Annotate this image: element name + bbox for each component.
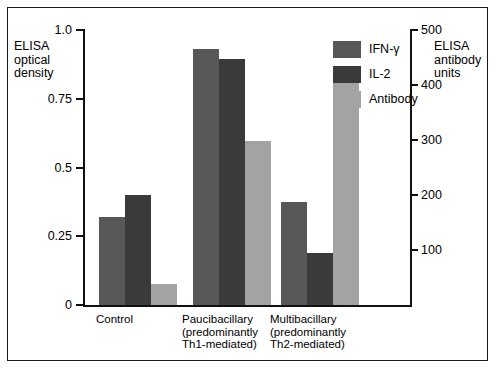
- y-tick-right: [410, 139, 418, 141]
- bar: [245, 141, 271, 305]
- x-axis-group-label: Control: [96, 313, 133, 326]
- legend-swatch: [333, 41, 361, 58]
- legend-label: IL-2: [369, 68, 391, 81]
- y-tick-label-left: 0.75: [48, 93, 72, 106]
- legend-item: IL-2: [333, 66, 428, 83]
- legend-item: IFN-γ: [333, 41, 428, 58]
- figure: ELISA optical density ELISA antibody uni…: [0, 0, 497, 370]
- y-tick-label-right: 100: [421, 244, 442, 257]
- y-tick-label-left: 0.25: [48, 230, 72, 243]
- y-tick-right: [410, 29, 418, 31]
- bar: [193, 49, 219, 305]
- y-axis-left-title: ELISA optical density: [14, 40, 80, 81]
- y-axis-right-title: ELISA antibody units: [434, 40, 494, 81]
- legend-label: IFN-γ: [369, 43, 400, 56]
- legend-label: Antibody: [369, 93, 418, 106]
- legend-item: Antibody: [333, 91, 428, 108]
- y-tick-label-left: 0.5: [55, 162, 72, 175]
- y-tick-right: [410, 249, 418, 251]
- y-tick-right: [410, 194, 418, 196]
- bar: [219, 59, 245, 305]
- bar: [281, 202, 307, 305]
- x-axis-group-label: Multibacillary (predominantly Th2-mediat…: [270, 313, 346, 351]
- y-tick-label-left: 0: [65, 299, 72, 312]
- legend: IFN-γIL-2Antibody: [333, 41, 428, 116]
- bar: [151, 284, 177, 305]
- y-tick-label-left: 1.0: [55, 24, 72, 37]
- y-tick-label-right: 500: [421, 24, 442, 37]
- x-axis-group-label: Paucibacillary (predominantly Th1-mediat…: [182, 313, 258, 351]
- legend-swatch: [333, 66, 361, 83]
- x-axis-line: [83, 305, 412, 307]
- y-tick-label-right: 300: [421, 134, 442, 147]
- bar: [125, 195, 151, 305]
- y-tick-label-right: 200: [421, 189, 442, 202]
- bar: [99, 217, 125, 305]
- legend-swatch: [333, 91, 361, 108]
- bar: [307, 253, 333, 305]
